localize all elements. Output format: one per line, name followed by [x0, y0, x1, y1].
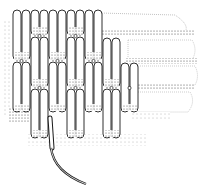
basketry-illustration [0, 0, 206, 192]
coiled-basket-drawing [0, 0, 206, 192]
